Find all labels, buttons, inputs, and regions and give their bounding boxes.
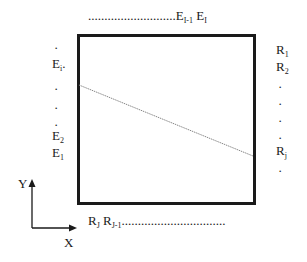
ray-line [79, 85, 253, 156]
right-dot: · [278, 97, 282, 110]
left-dot: · [54, 101, 58, 114]
left-dot: · [54, 41, 58, 54]
x-axis-label: X [64, 236, 73, 249]
top-edge-labels: ...........................EI-1 EI [88, 9, 207, 22]
label-r-J: RJ [88, 213, 100, 228]
top-leader-dots: ........................... [88, 8, 176, 23]
label-e-2: E2 [52, 129, 64, 142]
right-dot: · [278, 80, 282, 93]
label-r-1: R1 [276, 43, 289, 56]
label-e-i-left: Ei. [52, 57, 65, 70]
left-dot: · [54, 82, 58, 95]
label-r-j: Rj [276, 144, 287, 157]
bottom-leader-dots: ................................ [122, 213, 226, 228]
label-r-2: R2 [276, 60, 289, 73]
label-e-i-1: EI-1 [176, 8, 193, 23]
y-axis-arrow-icon [29, 179, 36, 187]
right-dot: · [278, 114, 282, 127]
bottom-edge-labels: RJ RJ-1................................ [88, 214, 226, 227]
label-e-1: E1 [52, 146, 64, 159]
right-dot: · [278, 164, 282, 177]
label-e-i: EI [196, 8, 207, 23]
x-axis-arrow-icon [69, 225, 77, 232]
label-r-J-1: RJ-1 [103, 213, 121, 228]
y-axis-label: Y [18, 177, 27, 190]
domain-box [79, 36, 255, 204]
